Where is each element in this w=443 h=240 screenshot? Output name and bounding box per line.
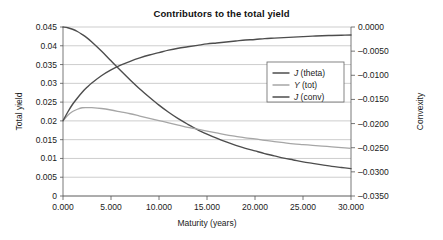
y-tick-label: 0.01 xyxy=(40,153,57,163)
x-tick-label: 25.000 xyxy=(290,202,316,212)
series-line-1 xyxy=(63,108,351,149)
chart-container: Contributors to the total yield 00.0050.… xyxy=(0,0,443,240)
y2-tick-label: –0.0150 xyxy=(358,94,389,104)
y-tick-label: 0.03 xyxy=(40,78,57,88)
y2-tick-label: –0.0350 xyxy=(358,191,389,201)
chart-plot: 00.0050.010.0150.020.0250.030.0350.040.0… xyxy=(0,0,443,240)
x-tick-label: 10.000 xyxy=(146,202,172,212)
y-tick-label: 0.04 xyxy=(40,41,57,51)
y-tick-label: 0.005 xyxy=(36,172,58,182)
y2-tick-label: –0.0250 xyxy=(358,143,389,153)
x-axis-title: Maturity (years) xyxy=(177,218,236,228)
y-tick-label: 0.02 xyxy=(40,116,57,126)
y-tick-label: 0.015 xyxy=(36,135,58,145)
legend-label-0: J (theta) xyxy=(293,68,325,78)
x-tick-label: 15.000 xyxy=(194,202,220,212)
y2-tick-label: –0.0100 xyxy=(358,70,389,80)
x-tick-label: 30.000 xyxy=(338,202,364,212)
x-tick-label: 0.000 xyxy=(52,202,74,212)
y2-tick-label: –0.0050 xyxy=(358,46,389,56)
y2-tick-label: –0.0200 xyxy=(358,119,389,129)
y2-tick-label: 0.0000 xyxy=(358,22,384,32)
y2-tick-label: –0.0300 xyxy=(358,167,389,177)
legend-label-1: Y (tot) xyxy=(294,80,317,90)
y2-axis-title: Convexity xyxy=(415,92,425,130)
y-tick-label: 0.035 xyxy=(36,60,58,70)
x-tick-label: 5.000 xyxy=(100,202,122,212)
y-tick-label: 0.025 xyxy=(36,97,58,107)
y-tick-label: 0 xyxy=(52,191,57,201)
y-axis-title: Total yield xyxy=(14,92,24,130)
legend-label-2: J (conv) xyxy=(293,92,324,102)
x-tick-label: 20.000 xyxy=(242,202,268,212)
y-tick-label: 0.045 xyxy=(36,22,58,32)
